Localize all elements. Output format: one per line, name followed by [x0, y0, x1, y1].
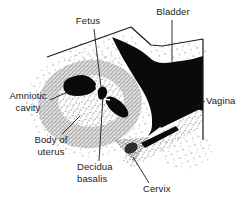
ultrasound-diagram: Fetus Bladder Amniotic cavity Vagina Bod…: [0, 0, 243, 199]
label-amniotic-cavity: Amniotic cavity: [5, 90, 51, 113]
label-decidua-basalis: Decidua basalis: [77, 161, 123, 184]
label-body-of-uterus: Body of uterus: [29, 134, 73, 157]
label-cervix: Cervix: [143, 183, 183, 195]
label-vagina: Vagina: [206, 95, 243, 107]
label-fetus: Fetus: [68, 15, 108, 27]
label-bladder: Bladder: [149, 6, 197, 18]
